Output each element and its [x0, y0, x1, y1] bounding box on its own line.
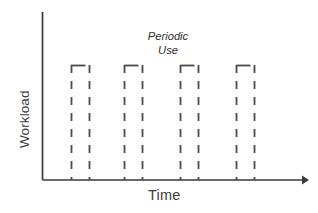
annotation-periodic-use: Periodic Use — [134, 30, 202, 57]
x-axis-arrow-icon — [302, 176, 309, 185]
chart-figure: Workload Time Periodic Use — [0, 0, 318, 213]
y-axis-label: Workload — [18, 90, 32, 148]
pulse-1 — [71, 65, 90, 180]
pulse-3 — [180, 65, 199, 180]
pulse-2 — [124, 65, 143, 180]
annotation-line-1: Periodic — [134, 30, 202, 44]
pulse-4 — [236, 65, 255, 180]
annotation-line-2: Use — [134, 44, 202, 58]
x-axis-label: Time — [148, 188, 180, 203]
